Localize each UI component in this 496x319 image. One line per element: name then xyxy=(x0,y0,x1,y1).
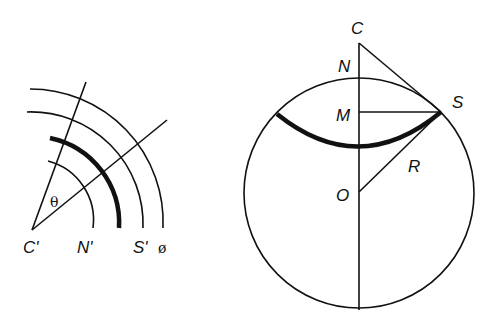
n-prime-label: N' xyxy=(77,238,93,257)
m-label: M xyxy=(336,106,351,125)
s-label: S xyxy=(452,93,464,112)
theta-label: θ xyxy=(50,194,58,210)
phi-label: ø xyxy=(158,240,166,256)
diagram-canvas: θ C' N' S' ø C N M S O R xyxy=(0,0,496,319)
r-label: R xyxy=(408,157,420,176)
c-prime-label: C' xyxy=(23,238,39,257)
o-label: O xyxy=(336,186,349,205)
left-diagram xyxy=(27,82,167,230)
n-label: N xyxy=(338,57,351,76)
right-diagram xyxy=(244,43,474,310)
s-prime-label: S' xyxy=(133,238,148,257)
c-label: C xyxy=(351,19,364,38)
tangent-line-cs xyxy=(359,43,441,112)
